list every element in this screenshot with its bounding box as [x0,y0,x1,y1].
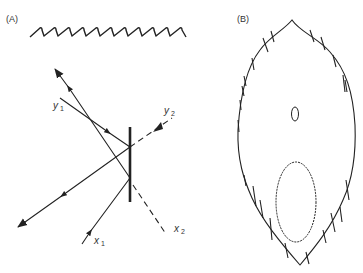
small-oval [292,107,299,121]
outer-outline [238,20,355,265]
ray-reflected-down [18,147,130,227]
outline-ticks [238,30,349,264]
label-x1: x1 [93,235,105,247]
label-y2: y2 [163,105,175,117]
figure-canvas: (A) y1 y2 x1 x2 (B) [0,0,363,273]
panel-a: (A) y1 y2 x1 x2 [6,14,186,247]
ray-y2-arrow-icon [153,122,163,132]
large-oval [276,162,316,242]
wavy-fibre [30,28,186,37]
ray-reflected-up [55,69,130,178]
ray-x1-incident [82,178,130,244]
ray-y2-dashed [130,118,172,147]
panel-b-label: (B) [237,14,249,24]
panel-a-label: (A) [6,14,18,24]
ray-x2-dashed [133,185,166,234]
ray-y1-incident [60,98,130,147]
label-x2: x2 [173,223,185,235]
label-y1: y1 [52,100,64,112]
panel-b: (B) [237,14,355,265]
